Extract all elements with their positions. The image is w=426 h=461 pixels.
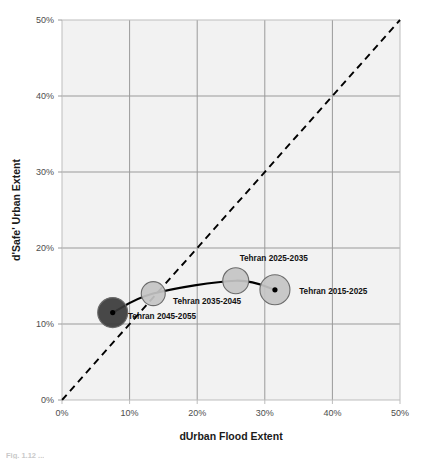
y-axis-title: d'Safe' Urban Extent <box>10 159 22 261</box>
y-tick-label: 40% <box>36 91 54 101</box>
bubble-center-dot <box>110 310 115 315</box>
x-tick-label: 30% <box>256 408 274 418</box>
x-tick-label: 50% <box>391 408 409 418</box>
x-axis-title: dUrban Flood Extent <box>179 430 283 442</box>
y-axis-tick-marks <box>58 20 62 400</box>
data-bubble <box>223 268 249 294</box>
y-tick-label: 10% <box>36 319 54 329</box>
bubble-center-dot <box>272 287 277 292</box>
x-tick-label: 40% <box>323 408 341 418</box>
x-axis-tick-marks <box>62 400 400 404</box>
figure-caption: Fig. 1.12 ... <box>6 450 44 459</box>
y-tick-label: 0% <box>41 395 54 405</box>
bubble-label: Tehran 2025-2035 <box>240 254 309 263</box>
y-tick-label: 20% <box>36 243 54 253</box>
bubble-chart: 0%10%20%30%40%50% 0%10%20%30%40%50% Tehr… <box>0 0 426 461</box>
y-tick-label: 30% <box>36 167 54 177</box>
x-tick-label: 10% <box>121 408 139 418</box>
bubble-label: Tehran 2015-2025 <box>299 287 368 296</box>
bubble-label: Tehran 2035-2045 <box>173 297 242 306</box>
y-axis-tick-labels: 0%10%20%30%40%50% <box>36 15 54 405</box>
data-bubble <box>141 282 165 306</box>
x-axis-tick-labels: 0%10%20%30%40%50% <box>55 408 409 418</box>
x-tick-label: 20% <box>188 408 206 418</box>
y-tick-label: 50% <box>36 15 54 25</box>
bubble-label: Tehran 2045-2055 <box>128 312 197 321</box>
x-tick-label: 0% <box>55 408 68 418</box>
figure-container: 0%10%20%30%40%50% 0%10%20%30%40%50% Tehr… <box>0 0 426 461</box>
